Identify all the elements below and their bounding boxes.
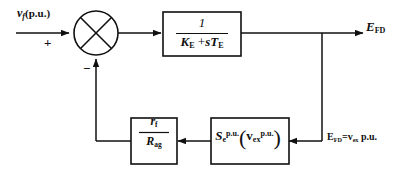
transfer-function-denominator: KE +sTE: [163, 35, 241, 48]
transfer-function-numerator: 1: [163, 16, 241, 29]
diagram-canvas: vf(p.u.) + − 1 KE +sTE EFD rf Rag Sep.u.…: [0, 0, 403, 175]
feedback-signal-note: EFD=vex p.u.: [327, 132, 377, 142]
negative-sign-label: −: [83, 62, 90, 75]
input-signal-label: vf(p.u.): [17, 7, 50, 21]
positive-sign-label: +: [44, 36, 51, 49]
output-signal-label: EFD: [366, 20, 385, 33]
gain-denominator: Rag: [133, 135, 175, 147]
gain-numerator: rf: [133, 115, 175, 127]
saturation-function-expression: Sep.u.(vexp.u.): [213, 127, 283, 149]
